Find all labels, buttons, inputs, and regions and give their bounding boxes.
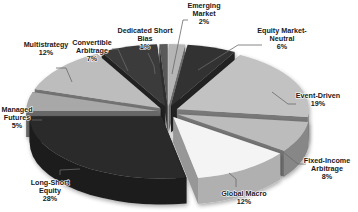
data-label-value: 1% (140, 42, 151, 51)
data-label-global-macro: Global Macro12% (221, 189, 267, 206)
pie-chart: Multistrategy12%ConvertibleArbitrage7%De… (0, 0, 358, 212)
data-label-value: 8% (322, 172, 333, 181)
data-label-multistrategy: Multistrategy12% (24, 40, 69, 57)
data-label-emerging-market: EmergingMarket2% (187, 1, 220, 26)
data-label-value: 19% (311, 99, 326, 108)
data-label-value: 2% (199, 17, 210, 26)
data-label-value: 28% (43, 194, 58, 203)
data-label-value: 12% (39, 48, 54, 57)
data-label-equity-market-neutral: Equity Market-Neutral6% (257, 26, 307, 51)
data-label-long-short-equity: Long-ShortEquity28% (31, 178, 70, 203)
data-label-fixed-income-arbitrage: Fixed-IncomeArbitrage8% (304, 156, 350, 181)
data-label-value: 7% (87, 54, 98, 63)
data-label-value: 12% (237, 197, 252, 206)
data-label-value: 6% (277, 42, 288, 51)
data-label-value: 5% (12, 121, 23, 130)
